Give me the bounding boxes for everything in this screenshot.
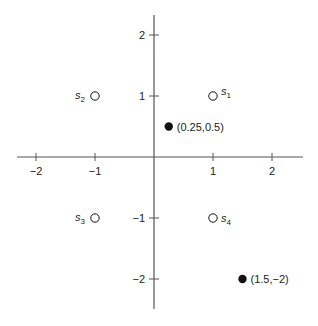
point-label-s1: s1 bbox=[221, 85, 232, 100]
y-tick-label: 2 bbox=[139, 29, 145, 41]
point-label-s4: s4 bbox=[221, 212, 232, 227]
filled-circle-marker bbox=[238, 275, 246, 283]
y-tick-label: −1 bbox=[132, 212, 145, 224]
data-points: s1s2s3s4(0.25,0.5)(1.5,−2) bbox=[75, 85, 289, 285]
axes bbox=[17, 15, 303, 309]
point-label-s2: s2 bbox=[75, 89, 86, 104]
x-tick-label: −2 bbox=[30, 165, 43, 177]
y-tick-label: −2 bbox=[132, 273, 145, 285]
point-label-s3: s3 bbox=[75, 211, 86, 226]
x-tick-label: 2 bbox=[269, 165, 275, 177]
x-tick-label: −1 bbox=[89, 165, 102, 177]
x-tick-label: 1 bbox=[210, 165, 216, 177]
open-circle-marker bbox=[209, 214, 217, 222]
coordinate-label: (0.25,0.5) bbox=[177, 121, 224, 133]
coordinate-plane: −2−11221−1−2 s1s2s3s4(0.25,0.5)(1.5,−2) bbox=[0, 0, 318, 326]
filled-circle-marker bbox=[165, 122, 173, 130]
y-tick-label: 1 bbox=[139, 90, 145, 102]
open-circle-marker bbox=[209, 92, 217, 100]
open-circle-marker bbox=[91, 92, 99, 100]
coordinate-label: (1.5,−2) bbox=[251, 273, 289, 285]
open-circle-marker bbox=[91, 214, 99, 222]
